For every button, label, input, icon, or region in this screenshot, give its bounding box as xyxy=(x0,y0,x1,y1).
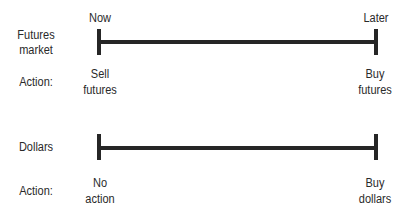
dollars-end-action-line2: dollars xyxy=(355,191,395,207)
dollars-end-action-line1: Buy xyxy=(355,175,395,191)
dollars-later-tick xyxy=(374,134,378,160)
futures-end-action-line2: futures xyxy=(355,82,395,98)
futures-timeline-line xyxy=(99,40,376,44)
futures-market-label-line2: market xyxy=(13,42,59,58)
futures-end-action-line1: Buy xyxy=(355,66,395,82)
futures-start-action-line1: Sell xyxy=(81,66,120,82)
dollars-action-label: Action: xyxy=(13,183,59,199)
dollars-label: Dollars xyxy=(13,139,59,155)
futures-later-tick xyxy=(374,29,378,55)
now-label: Now xyxy=(84,10,116,26)
futures-start-action-line2: futures xyxy=(81,82,120,98)
futures-action-label: Action: xyxy=(13,74,59,90)
dollars-start-action-line1: No xyxy=(81,175,120,191)
dollars-timeline-line xyxy=(99,146,376,150)
dollars-start-action-line2: action xyxy=(81,191,120,207)
later-label: Later xyxy=(358,10,393,26)
futures-market-label-line1: Futures xyxy=(13,27,59,43)
